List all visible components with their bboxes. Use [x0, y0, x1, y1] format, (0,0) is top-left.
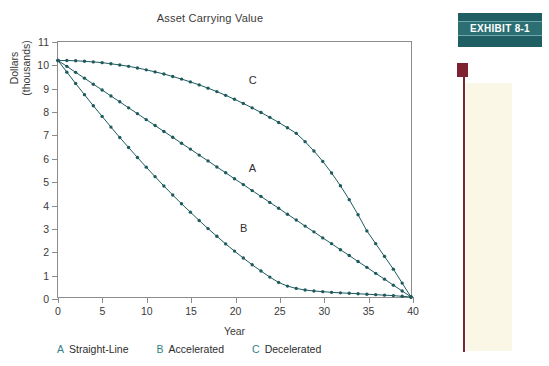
data-point-marker: [65, 70, 68, 73]
data-point-marker: [392, 294, 395, 297]
data-point-marker: [356, 292, 359, 295]
data-point-marker: [171, 193, 174, 196]
data-point-marker: [259, 269, 262, 272]
data-point-marker: [242, 183, 245, 186]
data-point-marker: [303, 140, 306, 143]
data-point-marker: [330, 242, 333, 245]
x-tick-label: 5: [99, 305, 105, 317]
margin-cream-block: [466, 83, 512, 351]
data-point-marker: [348, 198, 351, 201]
data-point-marker: [198, 219, 201, 222]
data-point-marker: [162, 184, 165, 187]
data-point-marker: [74, 59, 77, 62]
chart-figure: Asset Carrying Value Dollars (thousands)…: [0, 0, 440, 366]
data-point-marker: [383, 277, 386, 280]
x-tick-mark: [413, 297, 414, 303]
y-tick-label: 3: [43, 223, 49, 235]
data-point-marker: [339, 291, 342, 294]
legend-key: C: [252, 343, 260, 355]
data-point-marker: [189, 147, 192, 150]
data-point-marker: [356, 260, 359, 263]
data-point-marker: [312, 230, 315, 233]
data-point-marker: [339, 184, 342, 187]
data-point-marker: [180, 202, 183, 205]
x-tick-label: 15: [185, 305, 197, 317]
y-tick-label: 1: [43, 270, 49, 282]
x-tick-label: 20: [230, 305, 242, 317]
y-tick-label: 5: [43, 176, 49, 188]
data-point-marker: [118, 136, 121, 139]
data-point-marker: [65, 65, 68, 68]
data-point-marker: [100, 61, 103, 64]
legend-key: A: [57, 343, 64, 355]
data-point-marker: [206, 159, 209, 162]
data-point-marker: [348, 254, 351, 257]
data-point-marker: [127, 106, 130, 109]
data-point-marker: [286, 284, 289, 287]
x-tick-label: 35: [363, 305, 375, 317]
data-point-marker: [392, 283, 395, 286]
y-tick-label: 4: [43, 200, 49, 212]
margin-vertical-rule: [463, 77, 465, 352]
data-point-marker: [215, 90, 218, 93]
data-point-marker: [162, 130, 165, 133]
data-point-marker: [268, 275, 271, 278]
data-point-marker: [189, 210, 192, 213]
data-point-marker: [242, 256, 245, 259]
data-point-marker: [215, 165, 218, 168]
x-tick-label: 30: [318, 305, 330, 317]
data-point-marker: [400, 289, 403, 292]
data-point-marker: [56, 59, 59, 62]
data-point-marker: [198, 83, 201, 86]
x-tick-mark: [280, 297, 281, 303]
y-tick-label: 11: [38, 36, 49, 48]
y-axis-title: Dollars (thousands): [8, 28, 32, 108]
data-point-marker: [277, 121, 280, 124]
data-point-marker: [189, 80, 192, 83]
data-point-marker: [215, 235, 218, 238]
data-point-marker: [171, 136, 174, 139]
exhibit-badge: EXHIBIT 8-1: [458, 13, 542, 47]
data-point-marker: [109, 62, 112, 65]
data-point-marker: [224, 94, 227, 97]
data-point-marker: [286, 213, 289, 216]
data-point-marker: [145, 165, 148, 168]
data-point-marker: [233, 249, 236, 252]
data-point-marker: [83, 60, 86, 63]
x-tick-mark: [369, 297, 370, 303]
x-tick-mark: [58, 297, 59, 303]
data-point-marker: [374, 242, 377, 245]
data-point-marker: [295, 132, 298, 135]
data-point-marker: [356, 213, 359, 216]
data-point-marker: [233, 98, 236, 101]
data-point-marker: [83, 76, 86, 79]
data-point-marker: [145, 68, 148, 71]
data-point-marker: [277, 207, 280, 210]
legend-item-B: BAccelerated: [157, 343, 224, 355]
exhibit-label: EXHIBIT 8-1: [458, 21, 542, 36]
legend-label: Decelerated: [265, 343, 322, 355]
x-tick-mark: [236, 297, 237, 303]
y-tick-label: 8: [43, 106, 49, 118]
legend-item-A: AStraight-Line: [57, 343, 129, 355]
data-point-marker: [374, 272, 377, 275]
x-tick-mark: [102, 297, 103, 303]
curve-label-A: A: [249, 162, 256, 174]
data-point-marker: [109, 125, 112, 128]
data-point-marker: [268, 201, 271, 204]
data-point-marker: [127, 146, 130, 149]
data-point-marker: [153, 175, 156, 178]
x-tick-label: 25: [274, 305, 286, 317]
data-point-marker: [365, 293, 368, 296]
data-point-marker: [92, 104, 95, 107]
data-point-marker: [74, 71, 77, 74]
data-point-marker: [83, 93, 86, 96]
curve-label-C: C: [249, 74, 257, 86]
y-tick-label: 2: [43, 246, 49, 258]
data-point-marker: [321, 290, 324, 293]
data-point-marker: [295, 218, 298, 221]
plot-area: 01234567891011 0510152025303540 CAB: [57, 41, 412, 298]
data-point-marker: [259, 111, 262, 114]
data-point-marker: [409, 295, 412, 298]
data-point-marker: [277, 281, 280, 284]
